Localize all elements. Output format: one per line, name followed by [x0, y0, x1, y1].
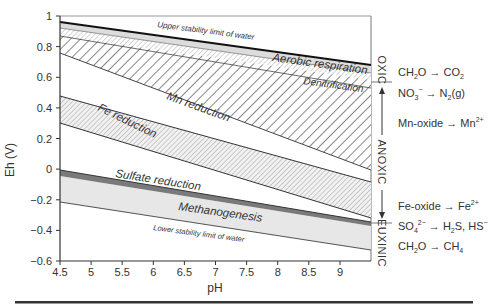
x-tick-label: 8: [275, 266, 281, 278]
reaction-text: CH: [398, 66, 414, 78]
y-tick-label: 0: [46, 163, 52, 175]
x-axis-label: pH: [207, 281, 222, 295]
y-tick-label: −0.6: [30, 255, 52, 267]
reaction-sulfate: SO42− → H2S, HS−: [398, 219, 488, 234]
x-tick-label: 6.5: [177, 266, 192, 278]
y-tick-label: 1: [46, 10, 52, 22]
reaction-methanogenesis: CH2O → CH4: [398, 240, 463, 254]
reaction-text: → N: [423, 87, 448, 99]
reaction-sub: 3: [415, 94, 419, 101]
reaction-sup: 2+: [476, 116, 484, 123]
reaction-sub: 4: [414, 227, 418, 234]
x-ticks: 4.5 5 5.5 6 6.5 7 7.5 8 8.5 9: [52, 261, 343, 278]
bottom-rule: [15, 301, 473, 304]
reaction-text: S, HS: [455, 220, 484, 232]
oxic-zone-label: OXIC: [376, 56, 388, 85]
anoxic-zone-label: ANOXIC: [376, 139, 388, 184]
reaction-text: SO: [398, 220, 414, 232]
reaction-text: O → CO: [418, 66, 460, 78]
euxinic-zone-label: EUXINIC: [376, 219, 388, 267]
reaction-denitrification: NO3− → N2(g): [398, 86, 465, 101]
reaction-mn: Mn-oxide → Mn2+: [398, 116, 484, 129]
y-tick-label: 0.6: [37, 71, 52, 83]
x-tick-label: 6: [150, 266, 156, 278]
arrow-down-icon: [379, 212, 385, 219]
y-tick-label: −0.4: [30, 224, 52, 236]
y-tick-label: 0.2: [37, 133, 52, 145]
reaction-fe: Fe-oxide → Fe2+: [398, 199, 479, 212]
reaction-sub: 2: [460, 73, 464, 80]
x-tick-label: 7: [212, 266, 218, 278]
reaction-text: (g): [451, 87, 464, 99]
reaction-text: Mn-oxide → Mn: [398, 117, 476, 129]
reaction-text: → H: [426, 220, 451, 232]
y-axis-label: Eh (V): [3, 143, 17, 177]
reaction-text: Fe-oxide → Fe: [398, 200, 471, 212]
reaction-sub: 4: [459, 247, 463, 254]
y-ticks: 1 0.8 0.6 0.4 0.2 0 −0.2 −0.4 −0.6: [30, 10, 60, 267]
x-tick-label: 9: [337, 266, 343, 278]
y-tick-label: 0.8: [37, 41, 52, 53]
reaction-text: NO: [398, 87, 415, 99]
y-tick-label: 0.4: [37, 102, 52, 114]
x-tick-label: 8.5: [301, 266, 316, 278]
x-tick-label: 5.5: [115, 266, 130, 278]
x-tick-label: 4.5: [52, 266, 67, 278]
reaction-sup: 2−: [418, 219, 426, 226]
reaction-sup: 2+: [471, 199, 479, 206]
x-tick-label: 5: [88, 266, 94, 278]
reaction-text: O → CH: [418, 240, 460, 252]
y-tick-label: −0.2: [30, 194, 52, 206]
reaction-sup: −: [484, 219, 488, 226]
reaction-text: CH: [398, 240, 414, 252]
arrow-up-icon: [379, 87, 385, 94]
reaction-aerobic: CH2O → CO2: [398, 66, 464, 80]
eh-ph-chart: 1 0.8 0.6 0.4 0.2 0 −0.2 −0.4 −0.6 4.5 5…: [0, 0, 494, 307]
x-tick-label: 7.5: [239, 266, 254, 278]
